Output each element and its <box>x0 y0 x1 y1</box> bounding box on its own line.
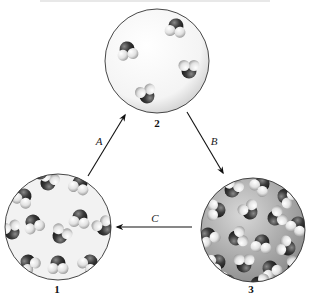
phase-cycle-diagram: 2 1 <box>0 0 313 298</box>
state-1-label: 1 <box>54 283 60 295</box>
state-2-circle <box>105 9 209 113</box>
state-3-circle <box>195 172 311 295</box>
state-1-circle <box>0 161 117 280</box>
arrow-b <box>187 112 223 173</box>
cropped-caption-remnant <box>40 0 270 2</box>
state-3-label: 3 <box>248 283 254 295</box>
arrow-a <box>88 115 125 176</box>
state-2-label: 2 <box>154 117 160 129</box>
arrow-c-label: C <box>151 212 159 224</box>
arrow-b-label: B <box>211 135 218 147</box>
arrow-a-label: A <box>95 135 103 147</box>
